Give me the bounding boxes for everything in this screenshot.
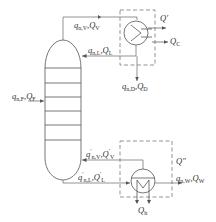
label-reflux: qn,L,QL	[88, 46, 112, 56]
column-trays	[45, 68, 81, 140]
bottom-vapor-line	[82, 160, 143, 169]
distillation-diagram	[0, 0, 216, 222]
label-bottom-vapor: q′n,V,Q′V	[86, 148, 114, 160]
label-top-vapor: qn,V,QV	[74, 21, 100, 31]
label-distillate: qn,D,QD	[122, 82, 148, 92]
label-reboiler-loss: Q″	[176, 157, 186, 166]
distillation-column	[45, 40, 81, 180]
reboiler-icon	[131, 169, 155, 203]
label-heating: Qh	[138, 206, 147, 216]
condenser-icon	[124, 21, 152, 45]
label-feed: qn,F,QF	[12, 92, 36, 102]
label-bottoms: qn,W,QW	[176, 174, 204, 184]
label-condenser-loss: Q′	[160, 14, 168, 23]
label-condenser-duty: QC	[170, 37, 180, 47]
heating-arrow-right	[147, 200, 151, 204]
label-bottom-liquid: q′n,L,Q′L	[78, 171, 105, 183]
heating-arrow-left	[135, 200, 139, 204]
